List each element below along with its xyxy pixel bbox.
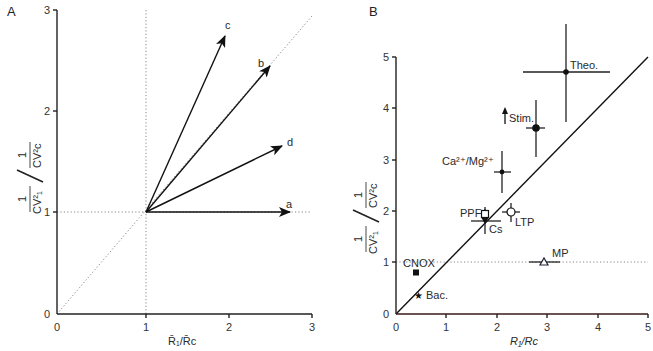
y-tick-label: 2 [44, 105, 50, 117]
identity-line [396, 57, 648, 314]
y-tick-label: 3 [44, 4, 50, 16]
x-tick-label: 2 [226, 321, 232, 333]
point-label: Cs [489, 223, 503, 235]
y-tick-label: 5 [383, 51, 389, 63]
x-tick-label: 4 [595, 321, 601, 333]
y-label-den: CV²c [367, 183, 379, 208]
x-tick-label: 1 [143, 321, 149, 333]
y-tick-label: 0 [383, 308, 389, 320]
point-label: Theo. [570, 59, 598, 71]
star-icon: ★ [414, 290, 423, 301]
x-tick-label: 3 [309, 321, 315, 333]
y-tick-label: 1 [44, 206, 50, 218]
point-stim: Stim. [502, 100, 545, 157]
x-axis-label: R̄₁/R̄c [168, 335, 197, 347]
identity-line [57, 16, 312, 314]
arrow-label-c: c [225, 19, 231, 31]
x-tick-label: 3 [544, 321, 550, 333]
point-ltp: LTP [502, 203, 534, 228]
y-label-num: 1 [16, 152, 28, 158]
arrow-c [146, 36, 225, 212]
y-tick-label: 1 [383, 256, 389, 268]
panel-b: B 0 1 2 3 4 5 0 1 2 3 4 5 R₁/Rc 1 [352, 4, 651, 347]
y-label-den: CV²c [31, 143, 43, 168]
figure-canvas: A 0 1 2 3 0 1 2 3 R̄₁/R̄c 1 CV²₁ 1 [0, 0, 653, 351]
point-mp: MP [529, 247, 569, 265]
point-label: Ca²⁺/Mg²⁺ [442, 155, 494, 167]
point-label: Stim. [509, 112, 534, 124]
point-label: PPF [460, 207, 482, 219]
arrow-label-a: a [286, 198, 293, 210]
point-label: CNOX [403, 257, 435, 269]
arrow-label-b: b [258, 57, 264, 69]
x-axis-label: R₁/Rc [510, 335, 538, 347]
arrow-d [146, 146, 282, 212]
point-label: MP [552, 247, 569, 259]
point-label: Bac. [426, 289, 448, 301]
y-axis-label: 1 CV²₁ 1 CV²c [16, 142, 43, 214]
panel-b-label: B [369, 4, 378, 19]
y-label-num: 1 [352, 236, 364, 242]
point-bac: ★ Bac. [414, 289, 448, 301]
x-tick-label: 0 [54, 321, 60, 333]
point-cnox: CNOX [403, 257, 435, 276]
y-label-den: CV²₁ [367, 231, 379, 254]
x-tick-label: 5 [645, 321, 651, 333]
y-tick-label: 4 [383, 102, 389, 114]
y-tick-label: 2 [383, 205, 389, 217]
y-axis-label: 1 CV²₁ 1 CV²c [352, 182, 379, 254]
point-ca-mg: Ca²⁺/Mg²⁺ [442, 151, 511, 193]
arrow-label-d: d [287, 136, 293, 148]
point-label: LTP [515, 216, 534, 228]
y-label-den: CV²₁ [31, 191, 43, 214]
x-tick-label: 1 [443, 321, 449, 333]
y-tick-label: 0 [44, 308, 50, 320]
panel-a: A 0 1 2 3 0 1 2 3 R̄₁/R̄c 1 CV²₁ 1 [7, 4, 315, 347]
panel-a-label: A [7, 4, 16, 19]
arrow-b [146, 66, 270, 212]
y-tick-label: 3 [383, 154, 389, 166]
y-label-num: 1 [352, 192, 364, 198]
x-tick-label: 0 [393, 321, 399, 333]
x-tick-label: 2 [494, 321, 500, 333]
y-label-num: 1 [16, 196, 28, 202]
